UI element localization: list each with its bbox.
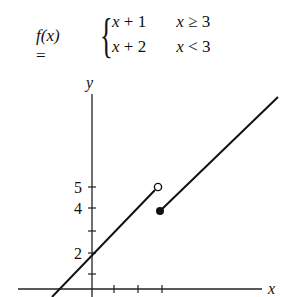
open-endpoint <box>154 183 161 190</box>
y-axis-label: y <box>84 74 94 92</box>
y-tick-label-2: 2 <box>74 245 82 262</box>
graph: 5 4 2 y x <box>0 0 300 297</box>
closed-endpoint <box>156 207 164 215</box>
segment-x-plus-2 <box>52 190 155 297</box>
segment-x-plus-1 <box>160 97 278 211</box>
y-tick-label-5: 5 <box>74 179 82 196</box>
y-tick-label-4: 4 <box>74 200 82 217</box>
x-axis-label: x <box>267 280 275 297</box>
